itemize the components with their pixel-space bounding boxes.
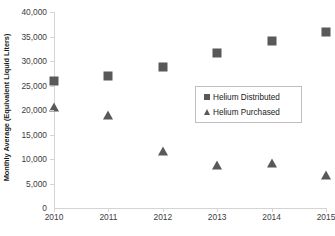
y-axis-tick-mark (50, 135, 54, 136)
x-axis-tick-mark (326, 208, 327, 212)
x-axis-tick-mark (54, 208, 55, 212)
chart-legend: Helium Distributed Helium Purchased (195, 86, 302, 123)
data-point-helium-distributed (267, 36, 276, 45)
y-axis-tick-mark (50, 12, 54, 13)
data-point-helium-distributed (104, 71, 113, 80)
data-point-helium-purchased (267, 158, 277, 167)
x-axis-tick-label: 2012 (153, 212, 172, 222)
legend-label-helium-distributed: Helium Distributed (212, 93, 280, 102)
data-point-helium-purchased (321, 170, 331, 179)
y-axis-tick-mark (50, 159, 54, 160)
x-axis-tick-mark (163, 208, 164, 212)
data-point-helium-purchased (212, 161, 222, 170)
y-axis-tick-mark (50, 61, 54, 62)
x-axis-tick-label: 2010 (45, 212, 64, 222)
y-axis-tick-mark (50, 110, 54, 111)
legend-label-helium-purchased: Helium Purchased (212, 108, 280, 117)
square-marker-icon (201, 94, 212, 100)
y-axis-tick-mark (50, 184, 54, 185)
x-axis-tick-label: 2011 (99, 212, 117, 222)
data-point-helium-distributed (322, 27, 331, 36)
x-axis-tick-label: 2013 (208, 212, 227, 222)
data-point-helium-distributed (50, 76, 59, 85)
x-axis-tick-mark (217, 208, 218, 212)
x-axis-tick-mark (272, 208, 273, 212)
legend-item-helium-purchased: Helium Purchased (201, 105, 301, 120)
data-point-helium-distributed (158, 62, 167, 71)
legend-item-helium-distributed: Helium Distributed (201, 90, 301, 105)
data-point-helium-purchased (103, 110, 113, 119)
y-axis-tick-mark (50, 86, 54, 87)
x-axis-tick-label: 2015 (317, 212, 335, 222)
data-point-helium-distributed (213, 49, 222, 58)
x-axis-tick-label: 2014 (262, 212, 281, 222)
triangle-marker-icon (201, 109, 212, 115)
x-axis-tick-mark (108, 208, 109, 212)
data-point-helium-purchased (158, 147, 168, 156)
y-axis-tick-mark (50, 37, 54, 38)
